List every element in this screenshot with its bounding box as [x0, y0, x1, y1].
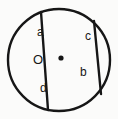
- circle-diagram-canvas: [0, 0, 118, 119]
- chord-upper-right-to-lower-right: [94, 21, 101, 94]
- center-point-dot: [58, 55, 63, 60]
- region-label-d: d: [40, 82, 47, 94]
- circle-chords-figure: O a c b d: [0, 0, 118, 119]
- region-label-c: c: [85, 30, 91, 42]
- region-label-b: b: [80, 66, 87, 78]
- center-label-o: O: [33, 53, 43, 66]
- region-label-a: a: [37, 26, 44, 38]
